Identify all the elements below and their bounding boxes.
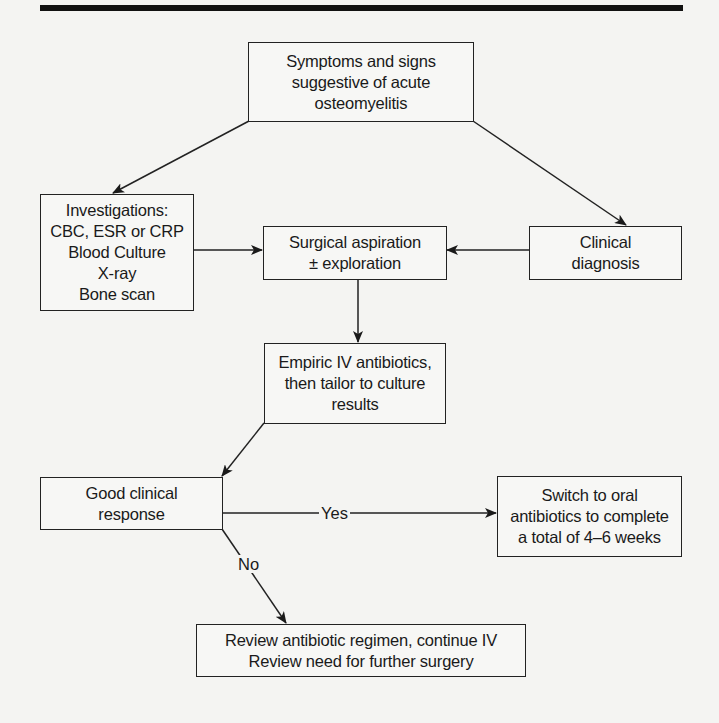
node-surgical-aspiration: Surgical aspiration ± exploration (263, 226, 447, 280)
node-good-clinical-response: Good clinical response (40, 477, 223, 530)
edge-symptoms-investigations (113, 121, 249, 193)
node-response-line: Good clinical (86, 483, 178, 504)
node-clinical-line: Clinical (572, 232, 640, 253)
edge-label-no: No (236, 555, 261, 573)
node-clinical-line: diagnosis (572, 253, 640, 274)
node-empiric-antibiotics: Empiric IV antibiotics, then tailor to c… (264, 343, 446, 424)
node-symptoms: Symptoms and signs suggestive of acute o… (248, 42, 474, 122)
node-oral-line: Switch to oral (510, 485, 669, 506)
node-oral-line: a total of 4–6 weeks (510, 527, 669, 548)
node-investigations: Investigations: CBC, ESR or CRP Blood Cu… (40, 194, 194, 311)
node-investigations-line: Bone scan (50, 284, 184, 305)
edge-symptoms-clinical (473, 121, 626, 225)
node-empiric-line: then tailor to culture (278, 373, 431, 394)
node-surgical-line: ± exploration (289, 253, 421, 274)
node-oral-line: antibiotics to complete (510, 506, 669, 527)
node-response-line: response (86, 504, 178, 525)
node-empiric-line: results (278, 394, 431, 415)
edge-empiric-response (222, 423, 264, 476)
node-symptoms-line: osteomyelitis (286, 93, 436, 114)
node-review-line: Review need for further surgery (225, 651, 497, 672)
node-investigations-line: Investigations: (50, 200, 184, 221)
node-review-line: Review antibiotic regimen, continue IV (225, 630, 497, 651)
edge-label-yes: Yes (319, 504, 350, 522)
node-empiric-line: Empiric IV antibiotics, (278, 352, 431, 373)
node-investigations-line: CBC, ESR or CRP (50, 221, 184, 242)
edge-response-review (222, 529, 286, 623)
node-clinical-diagnosis: Clinical diagnosis (529, 226, 682, 280)
node-switch-oral: Switch to oral antibiotics to complete a… (497, 476, 682, 557)
node-symptoms-line: suggestive of acute (286, 72, 436, 93)
node-surgical-line: Surgical aspiration (289, 232, 421, 253)
node-investigations-line: Blood Culture (50, 242, 184, 263)
node-investigations-line: X-ray (50, 263, 184, 284)
node-symptoms-line: Symptoms and signs (286, 51, 436, 72)
node-review-regimen: Review antibiotic regimen, continue IV R… (196, 624, 526, 677)
